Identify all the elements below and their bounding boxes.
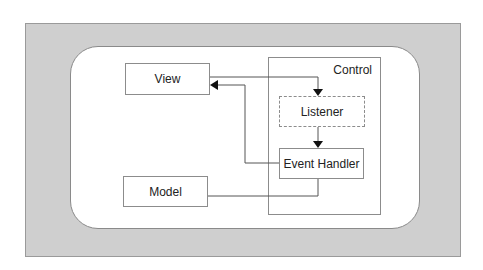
- diagram-canvas: Control View Listener Event Handler Mode…: [0, 0, 483, 270]
- model-label: Model: [149, 185, 182, 199]
- view-label: View: [155, 72, 181, 86]
- listener-node: Listener: [279, 96, 365, 127]
- control-container: Control: [268, 57, 381, 215]
- event-handler-node: Event Handler: [279, 148, 364, 179]
- listener-label: Listener: [301, 105, 344, 119]
- event-handler-label: Event Handler: [283, 157, 359, 171]
- control-label: Control: [333, 63, 372, 77]
- view-node: View: [125, 63, 210, 95]
- model-node: Model: [123, 176, 208, 207]
